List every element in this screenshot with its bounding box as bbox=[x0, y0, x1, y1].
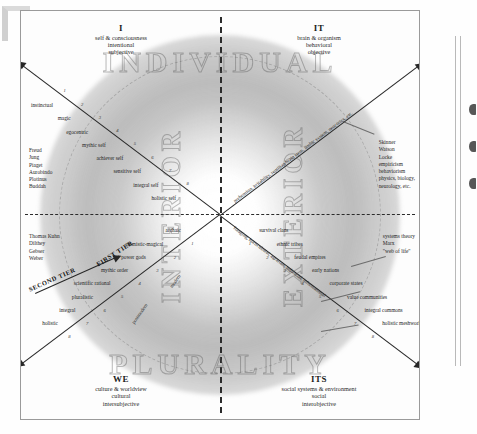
quadrant-its-line2: social bbox=[244, 392, 394, 399]
thinkers-lower-left: Thomas KuhnDiltheyGebserWeber bbox=[29, 233, 60, 262]
stage-label-lower-right: survival clans bbox=[259, 227, 288, 233]
thinker-upper-right-item: physics, biology, bbox=[379, 175, 415, 182]
stage-number-upper-left: 5 bbox=[134, 141, 136, 146]
scan-artifact-binder-hole-3 bbox=[469, 178, 476, 189]
thinkers-upper-right: SkinnerWatsonLockeempiricismbehaviorismp… bbox=[379, 139, 415, 190]
quadrant-caption-we: WE culture & worldview cultural intersub… bbox=[46, 374, 196, 407]
quadrant-we-line2: cultural bbox=[46, 392, 196, 399]
stage-label-lower-left: power gods bbox=[121, 254, 146, 260]
thinker-lower-right-item: systems theory bbox=[383, 233, 415, 240]
stage-label-upper-left: sensitive self bbox=[113, 168, 141, 174]
arrowhead-icon bbox=[20, 359, 25, 370]
thinker-upper-right-item: Watson bbox=[379, 146, 415, 153]
quadrant-key-we: WE bbox=[46, 374, 196, 385]
thinker-upper-right-item: behaviorism bbox=[379, 168, 415, 175]
stage-number-lower-right: 6 bbox=[337, 308, 339, 313]
quadrant-key-i: I bbox=[46, 23, 196, 34]
thinker-upper-left-item: Jung bbox=[29, 154, 52, 161]
stage-label-lower-right: holistic meshworks bbox=[382, 320, 420, 326]
quadrant-key-its: ITS bbox=[244, 374, 394, 385]
quadrant-its-line3: interobjective bbox=[244, 400, 394, 407]
stage-label-upper-left: egocentric bbox=[66, 129, 88, 135]
stage-number-lower-left: 4 bbox=[139, 281, 141, 286]
stage-number-lower-left: 1 bbox=[191, 241, 193, 246]
stage-label-upper-left: integral self bbox=[133, 182, 158, 188]
stage-label-lower-left: scientific rational bbox=[74, 280, 111, 286]
stage-label-lower-left: animistic-magical bbox=[125, 241, 163, 247]
arrowhead-icon bbox=[413, 361, 420, 372]
arrowhead-icon bbox=[415, 60, 420, 71]
stage-label-lower-right: feudal empires bbox=[294, 254, 325, 260]
stage-number-lower-left: 7 bbox=[86, 321, 88, 326]
thinker-lower-left-item: Dilthey bbox=[29, 240, 60, 247]
watermark-interior: INTERIOR bbox=[156, 127, 187, 304]
thinkers-upper-left: FreudJungPiagetAurobindoPlotinusBuddah bbox=[29, 147, 52, 191]
stage-label-lower-right: integral commons bbox=[365, 307, 403, 313]
stage-label-upper-left: instinctual bbox=[31, 102, 53, 108]
arrowhead-icon bbox=[20, 58, 27, 69]
quadrant-its-line1: social systems & environment bbox=[244, 385, 394, 392]
thinker-lower-left-item: Weber bbox=[29, 255, 60, 262]
stage-label-upper-left: achiever self bbox=[96, 155, 123, 161]
thinker-upper-left-item: Aurobindo bbox=[29, 169, 52, 176]
stage-label-lower-left: mythic order bbox=[101, 267, 128, 273]
stage-number-upper-left: 7 bbox=[169, 168, 171, 173]
thinker-upper-right-item: empiricism bbox=[379, 161, 415, 168]
stage-label-lower-left: archaic bbox=[166, 227, 181, 233]
stage-label-upper-left: holistic self bbox=[151, 195, 176, 201]
thinker-upper-right-item: Skinner bbox=[379, 139, 415, 146]
stage-label-lower-right: value communities bbox=[347, 294, 387, 300]
quadrant-i-line1: self & consciousness bbox=[46, 34, 196, 41]
stage-label-lower-right: corporate states bbox=[329, 280, 362, 286]
quadrant-we-line3: intersubjective bbox=[46, 400, 196, 407]
thinker-upper-left-item: Plotinus bbox=[29, 176, 52, 183]
stage-number-upper-left: 1 bbox=[64, 88, 66, 93]
stage-number-lower-left: 5 bbox=[121, 294, 123, 299]
quadrant-i-line3: subjective bbox=[46, 48, 196, 55]
quadrant-caption-i: I self & consciousness intentional subje… bbox=[46, 23, 196, 56]
stage-label-lower-right: early nations bbox=[312, 267, 339, 273]
quadrant-i-line2: intentional bbox=[46, 41, 196, 48]
stage-number-upper-left: 3 bbox=[99, 115, 101, 120]
quadrant-caption-it: IT brain & organism behavioral objective bbox=[244, 23, 394, 56]
stage-number-upper-left: 4 bbox=[116, 128, 118, 133]
stage-number-lower-left: 8 bbox=[68, 334, 70, 339]
scan-artifact-binder-hole-2 bbox=[469, 141, 476, 152]
thinkers-lower-right: systems theoryMarx"web of life" bbox=[383, 233, 415, 255]
stage-number-lower-right: 8 bbox=[372, 334, 374, 339]
thinker-lower-right-item: "web of life" bbox=[383, 248, 415, 255]
thinker-upper-left-item: Freud bbox=[29, 147, 52, 154]
quadrant-it-line2: behavioral bbox=[244, 41, 394, 48]
stage-number-lower-left: 2 bbox=[174, 255, 176, 260]
thinker-upper-right-item: neurology, etc. bbox=[379, 183, 415, 190]
scan-artifact-binder-hole-1 bbox=[469, 104, 476, 115]
quadrant-it-line3: objective bbox=[244, 48, 394, 55]
stage-label-upper-left: magic bbox=[58, 115, 71, 121]
thinker-upper-left-item: Buddah bbox=[29, 183, 52, 190]
thinker-upper-right-item: Locke bbox=[379, 154, 415, 161]
scan-artifact-rail-left bbox=[455, 36, 456, 366]
stage-number-lower-left: 6 bbox=[103, 308, 105, 313]
stage-number-lower-left: 3 bbox=[156, 268, 158, 273]
stage-label-lower-right: ethnic tribes bbox=[277, 241, 303, 247]
scan-artifact-rail-right bbox=[460, 36, 461, 366]
quadrant-we-line1: culture & worldview bbox=[46, 385, 196, 392]
stage-number-upper-left: 6 bbox=[151, 155, 153, 160]
stage-number-upper-left: 2 bbox=[81, 102, 83, 107]
stage-label-lower-left: pluralistic bbox=[72, 294, 93, 300]
stage-label-upper-left: mythic self bbox=[82, 142, 106, 148]
figure-frame: INDIVIDUAL PLURALITY INTERIOR EXTERIOR I… bbox=[20, 10, 420, 420]
thinker-upper-left-item: Piaget bbox=[29, 162, 52, 169]
scanned-figure-page: INDIVIDUAL PLURALITY INTERIOR EXTERIOR I… bbox=[0, 0, 477, 434]
quadrant-caption-its: ITS social systems & environment social … bbox=[244, 374, 394, 407]
thinker-lower-left-item: Thomas Kuhn bbox=[29, 233, 60, 240]
thinker-lower-right-item: Marx bbox=[383, 240, 415, 247]
stage-number-upper-left: 8 bbox=[187, 181, 189, 186]
quadrant-key-it: IT bbox=[244, 23, 394, 34]
quadrant-it-line1: brain & organism bbox=[244, 34, 394, 41]
thinker-lower-left-item: Gebser bbox=[29, 248, 60, 255]
stage-label-lower-left: holistic bbox=[42, 320, 58, 326]
stage-label-lower-left: integral bbox=[59, 307, 75, 313]
